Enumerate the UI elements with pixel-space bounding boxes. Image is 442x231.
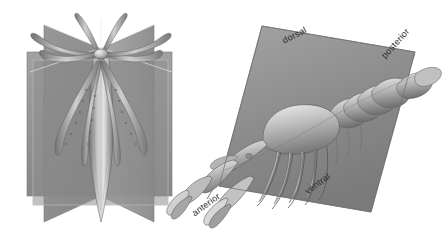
radial-symmetry-panel	[27, 13, 172, 222]
symmetry-figure	[0, 0, 442, 231]
